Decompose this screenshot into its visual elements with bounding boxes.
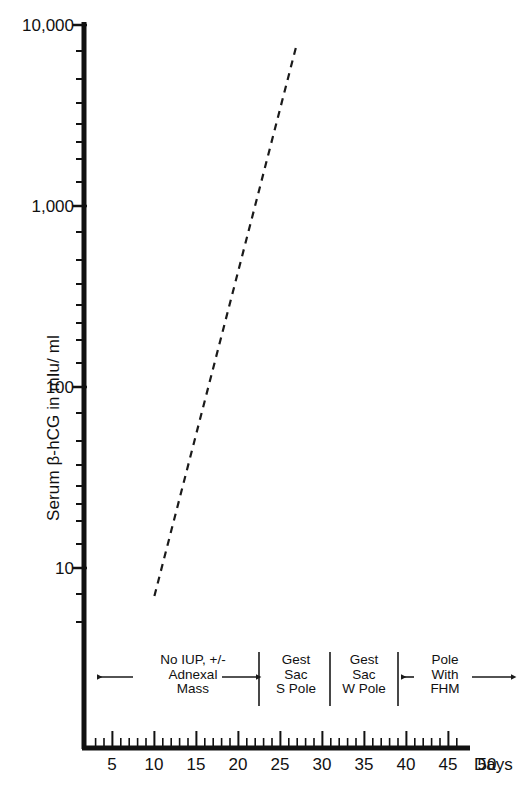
chart-figure: Serum β-hCG in mIu/ ml 10,000 1,000 100 … (0, 0, 523, 797)
plot-canvas (0, 0, 523, 797)
series-line-hcg-rise (154, 43, 297, 596)
x-axis-ticks (96, 731, 457, 746)
axis-spines (82, 22, 470, 749)
annotation-markers (97, 652, 511, 706)
x-tick-minor-group (96, 738, 457, 746)
